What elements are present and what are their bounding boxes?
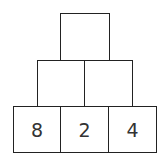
- pyramid-top-cell: [60, 13, 110, 61]
- pyramid-middle-cell-left: [37, 60, 85, 107]
- pyramid-middle-cell-right: [84, 60, 133, 107]
- pyramid-bottom-cell-2: 2: [60, 106, 109, 153]
- pyramid-bottom-cell-1: 8: [13, 106, 61, 153]
- pyramid-bottom-cell-3: 4: [108, 106, 157, 153]
